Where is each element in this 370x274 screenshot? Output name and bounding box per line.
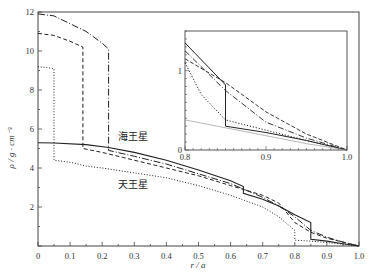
- x-tick-label: 0.7: [257, 251, 268, 261]
- x-tick-label: 0.2: [97, 251, 108, 261]
- y-tick-label: 8: [30, 85, 34, 95]
- x-tick-label: 0.1: [65, 251, 76, 261]
- x-tick-label: 0.4: [161, 251, 172, 261]
- y-tick-label: 10: [26, 46, 35, 56]
- density-profile-chart: 00.10.20.30.40.50.60.70.80.91.024681012 …: [0, 0, 370, 274]
- x-tick-label: 0.8: [289, 251, 300, 261]
- x-tick-label: 0.3: [129, 251, 140, 261]
- x-tick-label: 1.0: [354, 251, 365, 261]
- x-tick-label: 0.6: [225, 251, 236, 261]
- y-axis-title: ρ / g · cm⁻³: [6, 127, 16, 169]
- neptune-label: 海王星: [118, 130, 148, 142]
- y-tick-label: 2: [30, 202, 34, 212]
- x-tick-label: 0.9: [322, 251, 333, 261]
- uranus-label: 天王星: [118, 179, 148, 190]
- y-tick-label: 12: [26, 7, 35, 17]
- inset-y-tick-label: 1: [178, 66, 182, 76]
- inset-x-tick-label: 0.9: [261, 152, 272, 162]
- inset-y-tick-label: 0: [178, 145, 182, 155]
- x-axis-title: r / a: [190, 260, 206, 270]
- inset-x-tick-label: 1.0: [342, 152, 353, 162]
- y-tick-label: 6: [30, 124, 34, 134]
- inset-plot: 0.80.91.001: [178, 31, 353, 162]
- y-tick-label: 4: [30, 163, 35, 173]
- x-tick-label: 0: [36, 251, 40, 261]
